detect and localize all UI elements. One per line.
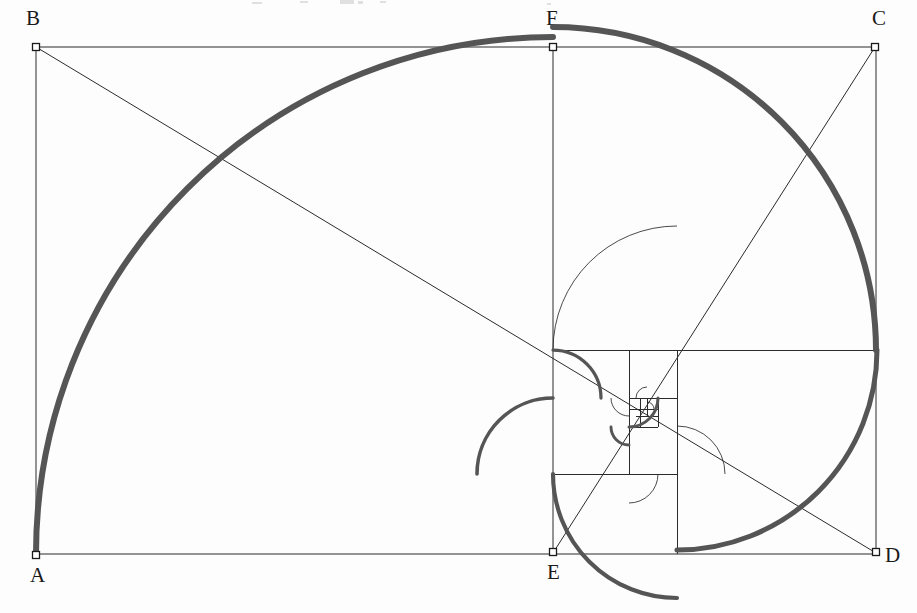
arc-quarter-4 bbox=[553, 474, 677, 598]
scan-speck-0 bbox=[340, 0, 354, 4]
scan-speck-5 bbox=[547, 3, 551, 5]
vertex-marker-c bbox=[872, 44, 879, 51]
thin-arc-5 bbox=[629, 474, 658, 503]
arc-quarter-1 bbox=[36, 37, 553, 554]
scan-speck-3 bbox=[380, 1, 386, 3]
arc-quarter-6 bbox=[553, 350, 601, 398]
arc-quarter-5 bbox=[477, 398, 553, 474]
vertex-marker-d bbox=[873, 549, 880, 556]
rectangle-and-diagonals-layer bbox=[36, 47, 876, 555]
vertex-marker-f bbox=[550, 44, 557, 51]
vertex-marker-b bbox=[33, 44, 40, 51]
scan-speck-4 bbox=[252, 2, 262, 4]
thin-arc-layer bbox=[553, 226, 725, 503]
scan-speck-1 bbox=[358, 1, 363, 4]
fibonacci-spiral-layer bbox=[36, 27, 877, 598]
vertex-label-c: C bbox=[872, 8, 886, 29]
diagonal-C-to-E bbox=[553, 47, 875, 553]
vertex-label-e: E bbox=[547, 562, 560, 583]
vertex-marker-e bbox=[550, 549, 557, 556]
arc-quarter-8 bbox=[611, 427, 629, 445]
figure-canvas: ABCDEF bbox=[0, 0, 917, 613]
scan-speck-2 bbox=[300, 1, 308, 3]
diagonal-B-to-D bbox=[36, 47, 876, 553]
vertex-label-b: B bbox=[26, 8, 40, 29]
arc-quarter-3 bbox=[677, 350, 877, 550]
vertex-marker-a bbox=[33, 552, 40, 559]
thin-arc-7 bbox=[636, 387, 647, 398]
vertex-marker-layer bbox=[33, 44, 880, 559]
thin-arc-4 bbox=[677, 426, 725, 474]
vertex-label-f: F bbox=[546, 8, 558, 29]
vertex-label-a: A bbox=[30, 565, 45, 586]
vertex-label-d: D bbox=[885, 545, 900, 566]
arc-quarter-2 bbox=[553, 27, 876, 350]
golden-rectangle-diagram bbox=[0, 0, 917, 613]
thin-arc-3 bbox=[553, 226, 677, 350]
thin-arc-6 bbox=[611, 398, 629, 416]
